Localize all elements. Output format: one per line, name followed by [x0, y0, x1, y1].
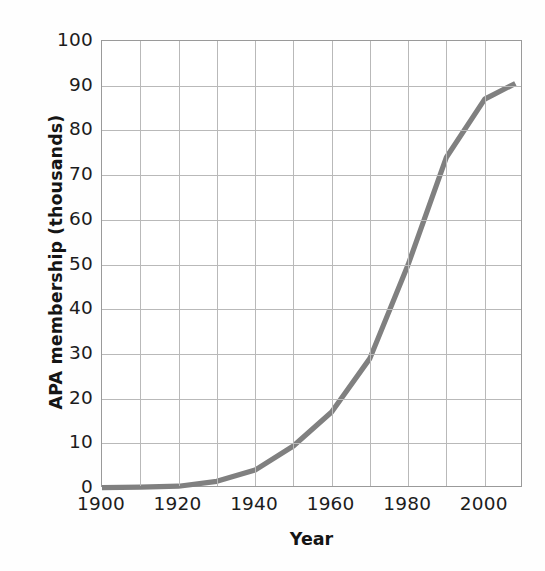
y-axis-tick-label: 30 [69, 344, 93, 363]
horizontal-gridline [102, 309, 521, 310]
y-axis-tick-label: 10 [69, 433, 93, 452]
x-axis-tick-labels: 190019201940196019802000 [101, 495, 522, 521]
y-axis-title: APA membership (thousands) [46, 97, 66, 427]
y-axis-tick-label: 70 [69, 165, 93, 184]
horizontal-gridline [102, 399, 521, 400]
y-axis-tick-label: 100 [57, 31, 93, 50]
y-axis-tick-label: 80 [69, 120, 93, 139]
vertical-gridline [485, 41, 486, 486]
horizontal-gridline [102, 443, 521, 444]
horizontal-gridline [102, 175, 521, 176]
vertical-gridline [370, 41, 371, 486]
data-line [102, 83, 515, 487]
x-axis-tick-label: 1980 [367, 495, 447, 514]
vertical-gridline [446, 41, 447, 486]
x-axis-title: Year [101, 529, 522, 549]
vertical-gridline [179, 41, 180, 486]
chart-figure: 0102030405060708090100 19001920194019601… [0, 0, 545, 571]
vertical-gridline [140, 41, 141, 486]
y-axis-tick-label: 90 [69, 76, 93, 95]
vertical-gridline [217, 41, 218, 486]
vertical-gridline [255, 41, 256, 486]
vertical-gridline [293, 41, 294, 486]
plot-area [101, 40, 522, 487]
vertical-gridline [332, 41, 333, 486]
y-axis-tick-label: 40 [69, 299, 93, 318]
x-axis-tick-label: 1920 [138, 495, 218, 514]
horizontal-gridline [102, 130, 521, 131]
y-axis-tick-label: 60 [69, 210, 93, 229]
horizontal-gridline [102, 265, 521, 266]
horizontal-gridline [102, 220, 521, 221]
horizontal-gridline [102, 86, 521, 87]
horizontal-gridline [102, 354, 521, 355]
x-axis-tick-label: 2000 [444, 495, 524, 514]
y-axis-tick-label: 50 [69, 255, 93, 274]
x-axis-tick-label: 1960 [291, 495, 371, 514]
y-axis-tick-label: 20 [69, 389, 93, 408]
vertical-gridline [408, 41, 409, 486]
x-axis-tick-label: 1900 [61, 495, 141, 514]
x-axis-tick-label: 1940 [214, 495, 294, 514]
